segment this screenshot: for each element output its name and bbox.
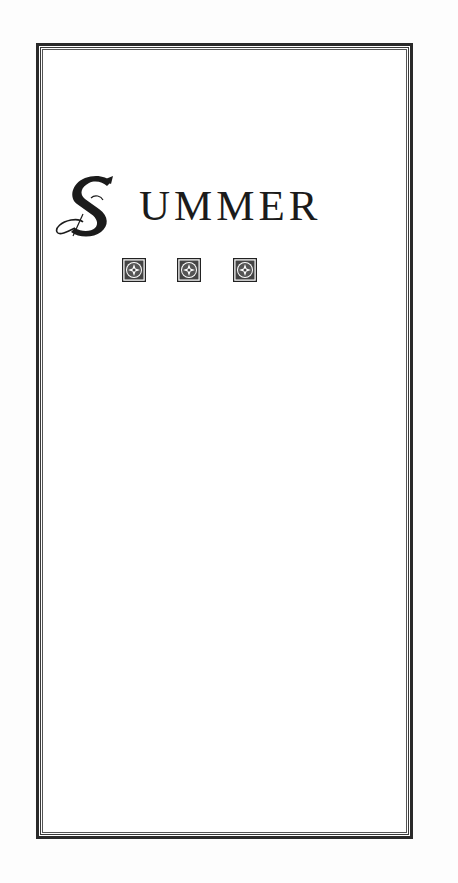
- floral-square-ornament-icon: [177, 258, 201, 282]
- inner-border-line: [42, 49, 407, 833]
- title-text: UMMER: [139, 182, 321, 230]
- floral-square-ornament-icon: [233, 258, 257, 282]
- floral-square-ornament-icon: [122, 258, 146, 282]
- blackletter-s-drop-cap-icon: [55, 174, 119, 240]
- inner-border-line: [40, 47, 409, 835]
- decorative-page-border: UMMER: [36, 43, 413, 839]
